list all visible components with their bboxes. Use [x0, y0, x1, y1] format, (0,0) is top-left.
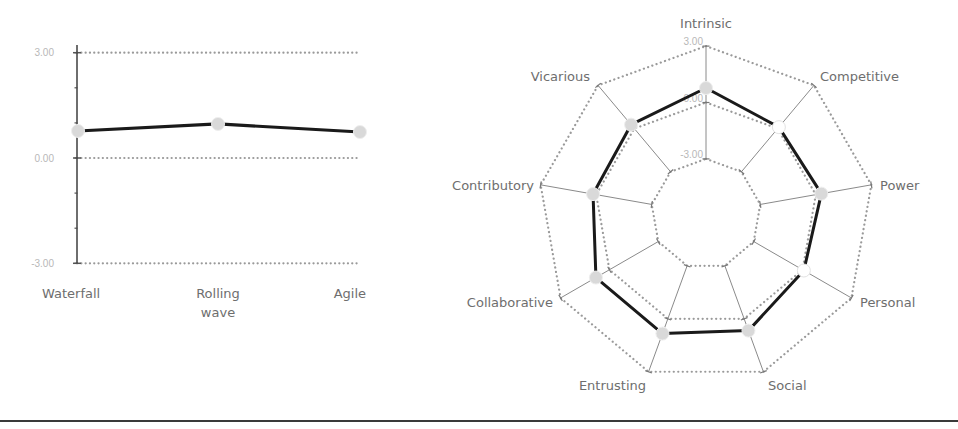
charts-canvas: 3.000.00-3.00WaterfallRollingwaveAgile 3…	[0, 0, 958, 429]
x-category-label: Agile	[334, 286, 366, 301]
radar-data-point-marker	[589, 271, 602, 284]
data-point-marker	[212, 117, 225, 130]
radar-chart: 3.000.00-3.00IntrinsicCompetitivePowerPe…	[452, 16, 920, 393]
radar-tick	[760, 201, 761, 208]
radar-category-label: Social	[768, 378, 807, 393]
radar-tick	[752, 239, 756, 245]
radar-data-point-marker	[772, 121, 785, 134]
radar-data-point-marker	[656, 327, 669, 340]
radar-category-label: Entrusting	[579, 378, 646, 393]
radar-data-point-marker	[625, 118, 638, 131]
radar-category-label: Power	[880, 178, 920, 193]
x-category-label: Waterfall	[42, 286, 100, 301]
bottom-divider	[0, 420, 958, 422]
radar-category-label: Vicarious	[531, 69, 590, 84]
radar-category-label: Collaborative	[467, 295, 553, 310]
radar-data-point-marker	[742, 324, 755, 337]
radar-data-point-marker	[587, 188, 600, 201]
y-tick-label: -3.00	[31, 258, 54, 269]
data-point-marker	[354, 126, 367, 139]
radar-grid-ring	[652, 159, 761, 266]
data-point-marker	[72, 124, 85, 137]
radar-category-label: Personal	[860, 295, 915, 310]
x-category-label: wave	[201, 305, 235, 320]
x-category-label: Rolling	[196, 286, 240, 301]
y-tick-label: 3.00	[35, 47, 55, 58]
radar-category-label: Competitive	[820, 69, 899, 84]
y-tick-label: 0.00	[35, 153, 55, 164]
radar-data-point-marker	[700, 82, 713, 95]
radar-category-label: Intrinsic	[680, 16, 732, 31]
radar-tick-label: 3.00	[684, 36, 704, 47]
radar-tick	[871, 181, 872, 188]
line-chart: 3.000.00-3.00WaterfallRollingwaveAgile	[31, 45, 366, 320]
radar-category-label: Contributory	[452, 178, 534, 193]
radar-data-point-marker	[797, 264, 810, 277]
radar-data-point-marker	[815, 187, 828, 200]
radar-tick-label: -3.00	[680, 149, 703, 160]
